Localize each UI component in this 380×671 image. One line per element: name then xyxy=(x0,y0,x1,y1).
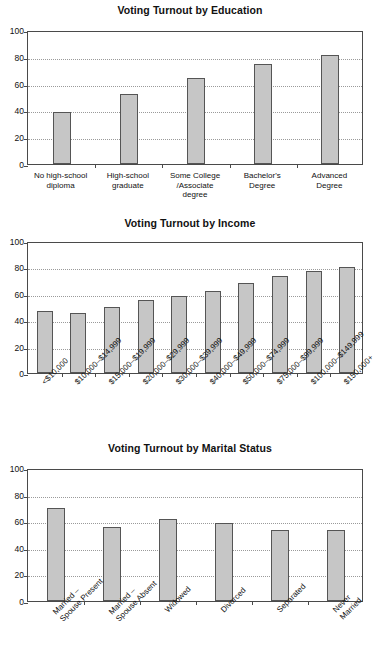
x-axis-tick xyxy=(196,373,197,377)
x-axis-tick xyxy=(252,601,253,605)
gridline xyxy=(28,576,362,577)
y-axis-tick-label: 20 xyxy=(15,134,24,143)
bar xyxy=(120,94,138,164)
figure-sheet: Voting Turnout by Education 020406080100… xyxy=(0,0,380,671)
x-axis-tick xyxy=(330,373,331,377)
y-axis-tick-label: 40 xyxy=(15,317,24,326)
bar xyxy=(321,55,339,164)
x-axis-tick xyxy=(162,164,163,168)
x-axis-tick xyxy=(95,373,96,377)
x-axis-tick xyxy=(297,164,298,168)
chart-title-marital-status: Voting Turnout by Marital Status xyxy=(0,442,380,455)
y-axis-tick xyxy=(24,139,28,140)
x-axis-tick xyxy=(263,373,264,377)
y-axis-tick-label: 80 xyxy=(15,264,24,273)
x-axis-tick xyxy=(196,601,197,605)
y-axis-tick-label: 100 xyxy=(10,27,24,36)
y-axis-tick-label: 100 xyxy=(10,465,24,474)
y-axis-tick-label: 0 xyxy=(19,370,24,379)
bar xyxy=(327,530,345,601)
y-axis-tick xyxy=(24,349,28,350)
y-axis-tick-label: 20 xyxy=(15,343,24,352)
y-axis-tick-label: 20 xyxy=(15,571,24,580)
bar xyxy=(159,519,177,601)
y-axis-tick-label: 80 xyxy=(15,491,24,500)
bar xyxy=(271,530,289,601)
bar xyxy=(37,311,53,373)
plot-area-income: 020406080100<$10,000$10,000–$14,999$15,0… xyxy=(0,230,380,435)
y-axis-tick-label: 0 xyxy=(19,598,24,607)
y-axis-tick xyxy=(24,166,28,167)
y-axis-tick xyxy=(24,296,28,297)
gridline xyxy=(28,59,362,60)
bar xyxy=(205,291,221,374)
gridline xyxy=(28,269,362,270)
x-axis-tick xyxy=(62,373,63,377)
y-axis-tick-label: 60 xyxy=(15,291,24,300)
x-axis-tick xyxy=(230,373,231,377)
y-axis-tick xyxy=(24,32,28,33)
bar xyxy=(47,508,65,601)
y-axis-tick-label: 60 xyxy=(15,518,24,527)
y-axis-tick xyxy=(24,59,28,60)
x-axis-tick xyxy=(95,164,96,168)
y-axis-tick-label: 60 xyxy=(15,80,24,89)
y-axis-tick-label: 40 xyxy=(15,545,24,554)
chart-title-income: Voting Turnout by Income xyxy=(0,217,380,230)
plot-area-education: 020406080100No high-school diplomaHigh-s… xyxy=(0,17,380,207)
bar xyxy=(70,313,86,373)
bar xyxy=(187,78,205,164)
y-axis-tick xyxy=(24,603,28,604)
y-axis-tick-label: 0 xyxy=(19,161,24,170)
plot-area-marital-status: 020406080100Married – Spouse PresentMarr… xyxy=(0,455,380,667)
x-axis-tick xyxy=(129,373,130,377)
y-axis-tick xyxy=(24,470,28,471)
x-axis-tick xyxy=(230,164,231,168)
chart-marital-status: Voting Turnout by Marital Status 0204060… xyxy=(0,442,380,667)
chart-education: Voting Turnout by Education 020406080100… xyxy=(0,4,380,207)
y-axis-tick xyxy=(24,86,28,87)
x-axis-tick xyxy=(162,373,163,377)
y-axis-tick-label: 40 xyxy=(15,107,24,116)
bar xyxy=(254,64,272,165)
y-axis-tick xyxy=(24,576,28,577)
y-axis-tick xyxy=(24,243,28,244)
y-axis-labels: 020406080100 xyxy=(0,455,24,667)
gridline xyxy=(28,550,362,551)
y-axis-tick xyxy=(24,497,28,498)
bar xyxy=(215,523,233,601)
bar xyxy=(53,112,71,164)
y-axis-tick xyxy=(24,322,28,323)
x-axis-category-label: Advanced Degree xyxy=(288,171,371,190)
y-axis-tick-label: 100 xyxy=(10,238,24,247)
gridline xyxy=(28,497,362,498)
x-axis-tick xyxy=(297,373,298,377)
y-axis-tick xyxy=(24,550,28,551)
bar xyxy=(103,527,121,601)
x-axis-tick xyxy=(308,601,309,605)
y-axis-labels: 020406080100 xyxy=(0,230,24,435)
y-axis-tick xyxy=(24,269,28,270)
chart-title-education: Voting Turnout by Education xyxy=(0,4,380,17)
plot-box xyxy=(27,31,363,165)
y-axis-tick xyxy=(24,375,28,376)
y-axis-tick xyxy=(24,523,28,524)
chart-income: Voting Turnout by Income 020406080100<$1… xyxy=(0,217,380,435)
y-axis-tick xyxy=(24,112,28,113)
y-axis-tick-label: 80 xyxy=(15,54,24,63)
gridline xyxy=(28,523,362,524)
